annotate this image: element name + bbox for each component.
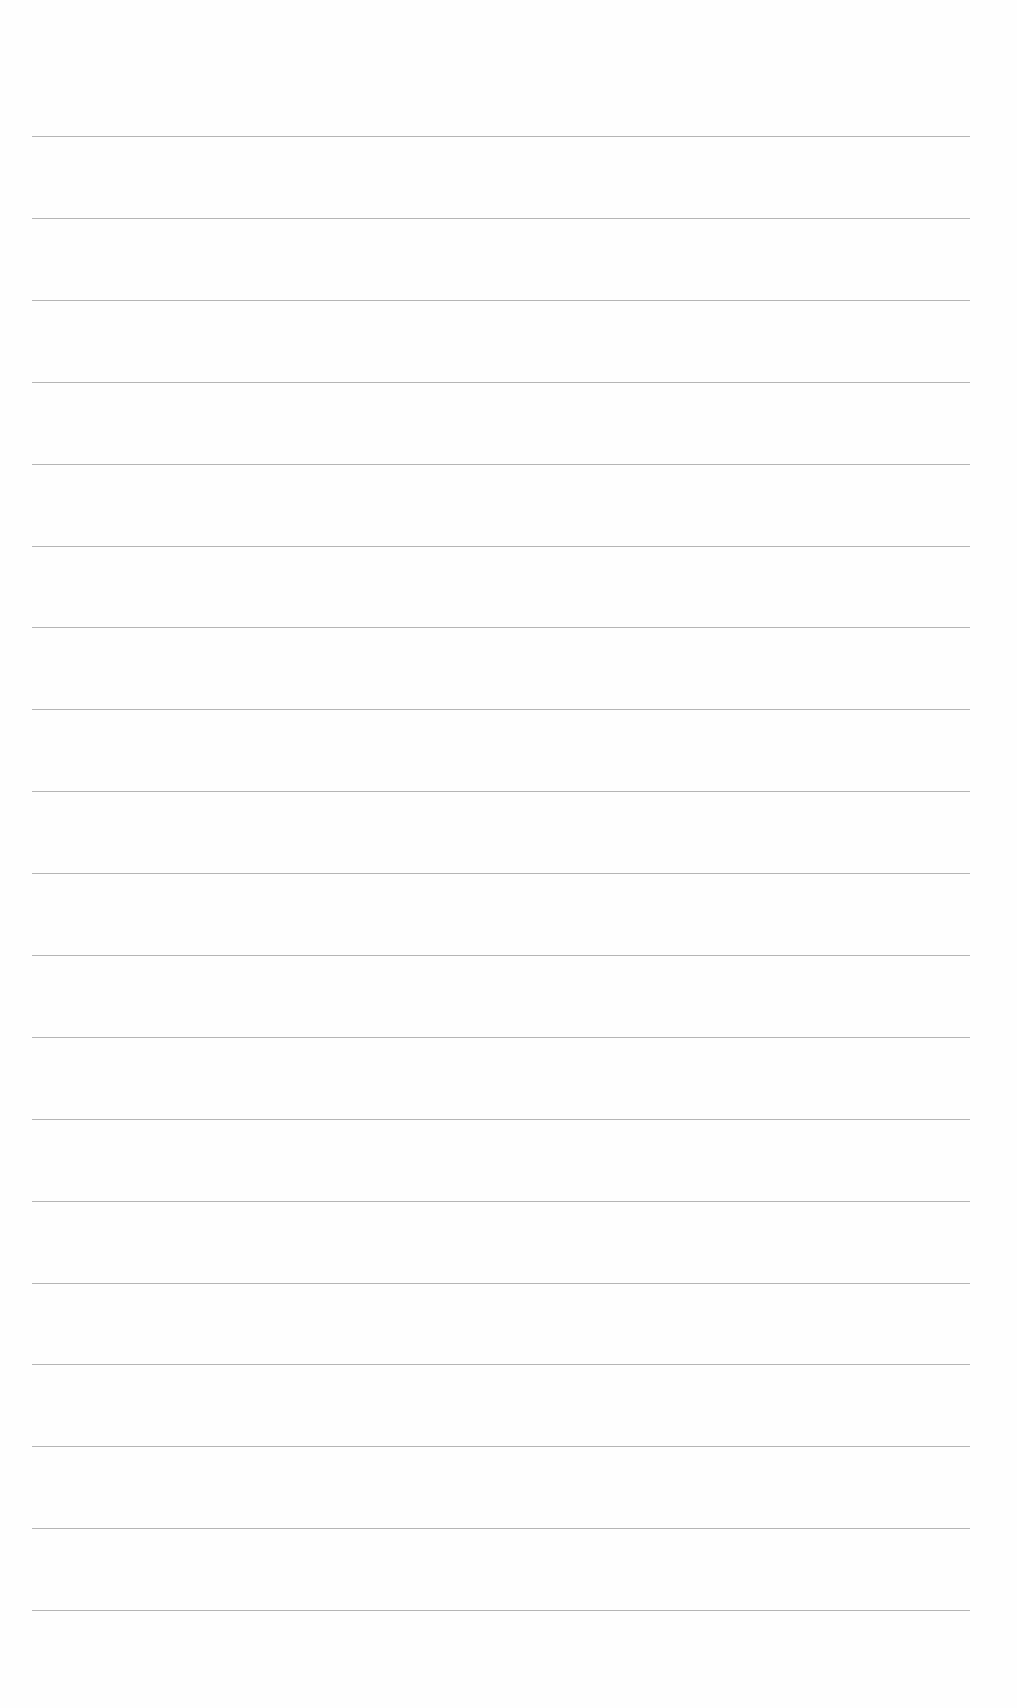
ruled-line (32, 300, 970, 301)
ruled-line (32, 1610, 970, 1611)
ruled-line (32, 1037, 970, 1038)
ruled-line (32, 1201, 970, 1202)
lined-paper-page (0, 0, 1017, 1708)
ruled-line (32, 136, 970, 137)
ruled-line (32, 955, 970, 956)
ruled-line (32, 709, 970, 710)
ruled-line (32, 1119, 970, 1120)
ruled-line (32, 873, 970, 874)
ruled-line (32, 464, 970, 465)
ruled-line (32, 791, 970, 792)
ruled-line (32, 1283, 970, 1284)
ruled-line (32, 1364, 970, 1365)
ruled-line (32, 218, 970, 219)
ruled-line (32, 546, 970, 547)
ruled-line (32, 382, 970, 383)
ruled-line (32, 627, 970, 628)
ruled-line (32, 1528, 970, 1529)
ruled-line (32, 1446, 970, 1447)
